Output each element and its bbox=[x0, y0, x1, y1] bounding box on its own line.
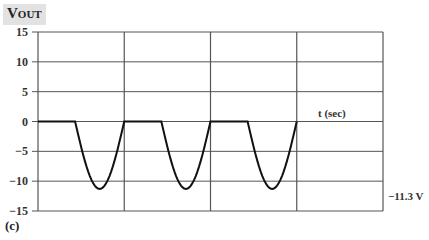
vout-waveform bbox=[38, 122, 297, 189]
y-tick-label: 5 bbox=[22, 85, 28, 99]
y-tick-label: −5 bbox=[15, 144, 28, 158]
y-tick-label: 10 bbox=[16, 55, 28, 69]
x-axis-title: t (sec) bbox=[318, 107, 346, 120]
peak-voltage-annotation: −11.3 V bbox=[388, 190, 423, 202]
y-tick-label: 15 bbox=[16, 25, 28, 39]
y-tick-label: −15 bbox=[9, 204, 28, 218]
chart-plot: 151050−5−10−15t (sec)−11.3 V bbox=[0, 0, 429, 240]
y-tick-label: −10 bbox=[9, 174, 28, 188]
panel-label: (c) bbox=[5, 218, 19, 234]
y-tick-label: 0 bbox=[22, 115, 28, 129]
